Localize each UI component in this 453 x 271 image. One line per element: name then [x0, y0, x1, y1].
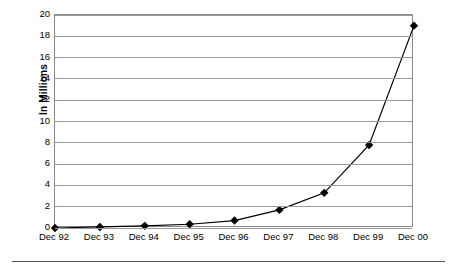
gridline [55, 15, 412, 16]
bottom-divider [12, 261, 445, 262]
gridline [55, 100, 412, 101]
x-axis-tick-labels: Dec 92Dec 93Dec 94Dec 95Dec 96Dec 97Dec … [0, 231, 453, 247]
y-tick-label: 14 [22, 73, 50, 83]
gridline [55, 121, 412, 122]
y-tick-label: 12 [22, 94, 50, 104]
gridline [55, 36, 412, 37]
y-tick-label: 10 [22, 116, 50, 126]
y-tick-label: 6 [22, 158, 50, 168]
y-tick-label: 18 [22, 30, 50, 40]
plot-area [54, 14, 413, 227]
y-tick-label: 16 [22, 52, 50, 62]
gridline [55, 185, 412, 186]
y-tick-label: 8 [22, 137, 50, 147]
data-point-marker [141, 222, 149, 230]
chart-figure: In Millions 02468101214161820 Dec 92Dec … [0, 0, 453, 271]
gridline [55, 142, 412, 143]
y-tick-label: 4 [22, 179, 50, 189]
y-tick-label: 2 [22, 201, 50, 211]
data-point-marker [410, 21, 418, 29]
gridline [55, 164, 412, 165]
gridline [55, 57, 412, 58]
x-tick-label: Dec 00 [383, 231, 443, 243]
y-tick-label: 20 [22, 9, 50, 19]
series-line [55, 26, 414, 228]
gridline [55, 78, 412, 79]
data-point-marker [230, 216, 238, 224]
y-axis-tick-labels: 02468101214161820 [22, 14, 50, 227]
gridline [55, 206, 412, 207]
gridline [55, 228, 412, 229]
